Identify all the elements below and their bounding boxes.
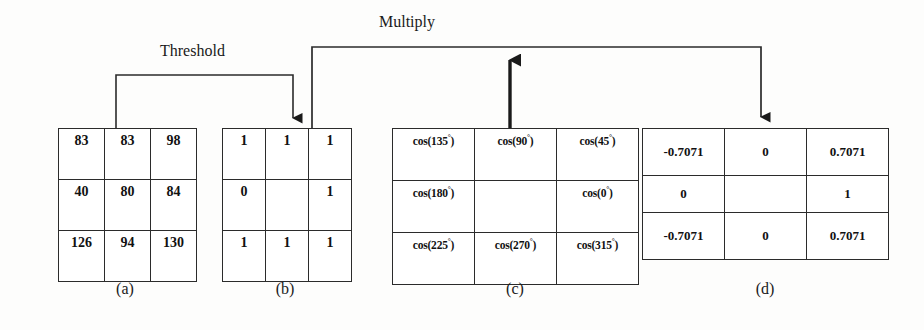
cell-d-1-0: 0	[643, 176, 725, 213]
cell-a-0-0: 83	[59, 129, 105, 180]
figure-canvas: Threshold Multiply 83 83 98 40 80 84 126…	[0, 0, 924, 330]
cell-b-1-0: 0	[223, 180, 266, 231]
cell-a-1-0: 40	[59, 180, 105, 231]
cell-d-2-1: 0	[725, 213, 807, 260]
cell-b-0-2: 1	[309, 129, 352, 180]
cell-c-2-0: cos(225°)	[393, 233, 475, 285]
cell-d-1-2: 1	[807, 176, 889, 213]
cell-a-0-2: 98	[151, 129, 197, 180]
table-row: 0 1	[223, 180, 352, 231]
caption-d: (d)	[735, 280, 795, 298]
cell-b-0-1: 1	[266, 129, 309, 180]
cell-a-2-2: 130	[151, 231, 197, 282]
threshold-connector	[116, 75, 293, 128]
cell-c-0-2: cos(45°)	[557, 129, 639, 181]
cell-a-0-1: 83	[105, 129, 151, 180]
matrix-a: 83 83 98 40 80 84 126 94 130	[58, 128, 197, 282]
cell-a-2-0: 126	[59, 231, 105, 282]
multiply-label: Multiply	[379, 13, 435, 31]
matrix-c: cos(135°) cos(90°) cos(45°) cos(180°) co…	[392, 128, 639, 285]
cell-d-0-1: 0	[725, 129, 807, 176]
threshold-label: Threshold	[160, 42, 225, 60]
cell-b-0-0: 1	[223, 129, 266, 180]
cell-c-2-2: cos(315°)	[557, 233, 639, 285]
table-row: -0.7071 0 0.7071	[643, 213, 889, 260]
cell-c-2-1: cos(270°)	[475, 233, 557, 285]
matrix-b: 1 1 1 0 1 1 1 1	[222, 128, 352, 282]
cell-c-1-0: cos(180°)	[393, 181, 475, 233]
cell-b-2-1: 1	[266, 231, 309, 282]
matrix-d: -0.7071 0 0.7071 0 1 -0.7071 0 0.7071	[642, 128, 889, 260]
multiply-connector	[312, 47, 761, 128]
cell-a-1-2: 84	[151, 180, 197, 231]
table-row: -0.7071 0 0.7071	[643, 129, 889, 176]
cell-c-1-2: cos(0°)	[557, 181, 639, 233]
cell-d-0-2: 0.7071	[807, 129, 889, 176]
caption-c: (c)	[485, 280, 545, 298]
caption-a: (a)	[95, 280, 155, 298]
table-row: 1 1 1	[223, 129, 352, 180]
cell-b-2-2: 1	[309, 231, 352, 282]
cell-b-1-2: 1	[309, 180, 352, 231]
cell-b-2-0: 1	[223, 231, 266, 282]
cell-a-1-1: 80	[105, 180, 151, 231]
table-row: cos(225°) cos(270°) cos(315°)	[393, 233, 639, 285]
cell-c-0-1: cos(90°)	[475, 129, 557, 181]
cell-d-2-2: 0.7071	[807, 213, 889, 260]
cell-d-1-1	[725, 176, 807, 213]
caption-b: (b)	[255, 280, 315, 298]
table-row: 0 1	[643, 176, 889, 213]
table-row: cos(135°) cos(90°) cos(45°)	[393, 129, 639, 181]
cell-a-2-1: 94	[105, 231, 151, 282]
cell-b-1-1	[266, 180, 309, 231]
cell-c-0-0: cos(135°)	[393, 129, 475, 181]
cell-d-0-0: -0.7071	[643, 129, 725, 176]
table-row: cos(180°) cos(0°)	[393, 181, 639, 233]
table-row: 83 83 98	[59, 129, 197, 180]
cell-d-2-0: -0.7071	[643, 213, 725, 260]
table-row: 126 94 130	[59, 231, 197, 282]
table-row: 40 80 84	[59, 180, 197, 231]
cell-c-1-1	[475, 181, 557, 233]
table-row: 1 1 1	[223, 231, 352, 282]
